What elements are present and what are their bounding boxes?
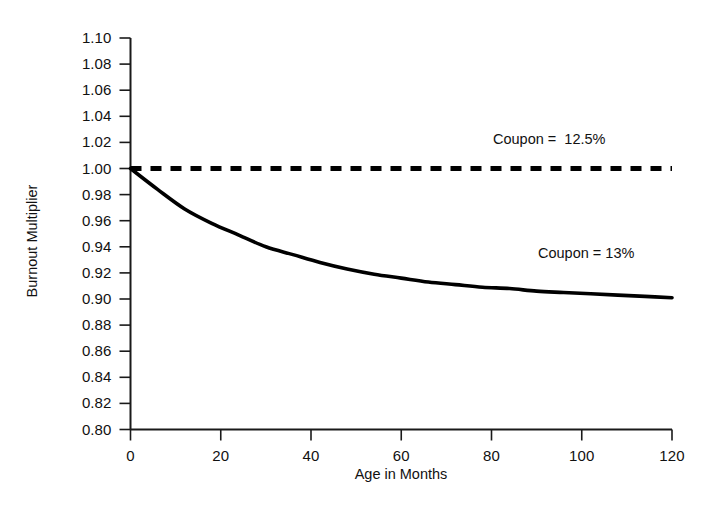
annotation-coupon-12-5: Coupon = 12.5% [493, 131, 605, 147]
x-axis-tick-label: 60 [371, 448, 431, 463]
x-axis-tick-label: 40 [281, 448, 341, 463]
x-axis-tick-label: 80 [462, 448, 522, 463]
y-axis-tick-label: 0.80 [46, 422, 112, 437]
series-line-coupon-13 [131, 169, 673, 298]
y-axis-tick-label: 1.00 [46, 161, 112, 176]
x-axis-tick-label: 100 [552, 448, 612, 463]
x-axis-tick-label: 20 [191, 448, 251, 463]
y-axis-tick-label: 1.02 [46, 134, 112, 149]
y-axis-tick-label: 0.84 [46, 369, 112, 384]
x-axis-title: Age in Months [251, 466, 551, 482]
y-axis-tick-label: 0.96 [46, 213, 112, 228]
x-axis-tick-label: 120 [642, 448, 702, 463]
y-axis-tick-label: 0.88 [46, 317, 112, 332]
y-axis-ticks [120, 38, 131, 430]
y-axis-title: Burnout Multiplier [24, 141, 40, 341]
burnout-multiplier-chart: 0.800.820.840.860.880.900.920.940.960.98… [0, 0, 717, 512]
y-axis-tick-label: 1.04 [46, 108, 112, 123]
y-axis-tick-label: 0.86 [46, 343, 112, 358]
y-axis-tick-label: 1.06 [46, 82, 112, 97]
y-axis-tick-label: 0.92 [46, 265, 112, 280]
x-axis-ticks [131, 430, 673, 441]
y-axis-tick-label: 0.90 [46, 291, 112, 306]
y-axis-tick-label: 0.94 [46, 239, 112, 254]
y-axis-tick-label: 1.08 [46, 56, 112, 71]
y-axis-tick-label: 0.98 [46, 187, 112, 202]
annotation-coupon-13: Coupon = 13% [538, 245, 634, 261]
x-axis-tick-label: 0 [101, 448, 161, 463]
y-axis-tick-label: 1.10 [46, 30, 112, 45]
axes [130, 38, 672, 430]
y-axis-tick-label: 0.82 [46, 395, 112, 410]
